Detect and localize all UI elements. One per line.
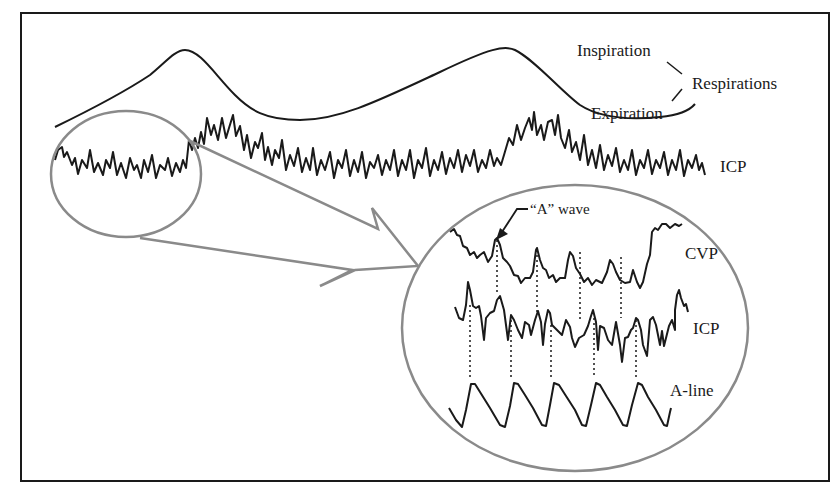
- label-cvp: CVP: [685, 245, 718, 262]
- label-expiration: Expiration: [591, 105, 663, 122]
- label-respirations: Respirations: [692, 75, 777, 92]
- icp-zoom-trace: [455, 282, 688, 362]
- label-inspiration: Inspiration: [577, 42, 651, 59]
- icp-waveform-diagram: Inspiration Respirations Expiration ICP …: [0, 0, 837, 487]
- bracket-lower: [672, 89, 682, 101]
- alignment-lines-aline: [470, 305, 636, 378]
- bracket-upper: [667, 62, 682, 74]
- cvp-trace: [450, 224, 682, 288]
- label-icp-main: ICP: [720, 158, 746, 175]
- a-line-trace: [449, 383, 671, 427]
- a-wave-pointer: [502, 209, 528, 232]
- label-a-wave: “A” wave: [530, 202, 590, 217]
- label-a-line: A-line: [670, 382, 713, 399]
- a-wave-arrowhead-icon: [496, 228, 508, 240]
- label-icp-zoom: ICP: [693, 320, 719, 337]
